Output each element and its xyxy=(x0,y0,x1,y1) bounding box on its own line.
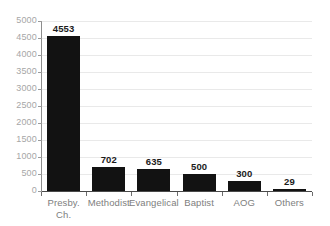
gridline xyxy=(41,89,312,90)
y-tick-label: 2500 xyxy=(1,101,37,110)
bar xyxy=(47,36,80,191)
y-tick-mark xyxy=(38,72,42,73)
bar xyxy=(92,167,125,191)
y-tick-mark xyxy=(38,21,42,22)
x-tick-mark xyxy=(267,192,268,196)
gridline xyxy=(41,55,312,56)
bar-value-label: 29 xyxy=(259,177,319,187)
category-label-line: Baptist xyxy=(184,197,214,208)
y-tick-mark xyxy=(38,123,42,124)
bar-value-label: 4553 xyxy=(34,24,94,34)
bar-chart: 5000450040003500300025002000150010005000… xyxy=(0,0,330,226)
category-label-line: Presby. xyxy=(47,197,79,208)
y-tick-mark xyxy=(38,140,42,141)
category-label-line: AOG xyxy=(234,197,255,208)
gridline xyxy=(41,38,312,39)
bar xyxy=(183,174,216,191)
y-tick-mark xyxy=(38,174,42,175)
y-tick-label: 5000 xyxy=(1,16,37,25)
y-tick-label: 2000 xyxy=(1,118,37,127)
y-tick-label: 1000 xyxy=(1,152,37,161)
x-tick-mark xyxy=(41,192,42,196)
y-axis-tick-labels: 5000450040003500300025002000150010005000 xyxy=(0,0,37,226)
gridline xyxy=(41,21,312,22)
x-tick-mark xyxy=(222,192,223,196)
gridline xyxy=(41,106,312,107)
x-tick-mark xyxy=(131,192,132,196)
x-tick-mark xyxy=(312,192,313,196)
y-tick-label: 4500 xyxy=(1,33,37,42)
y-tick-mark xyxy=(38,157,42,158)
y-tick-label: 3500 xyxy=(1,67,37,76)
x-tick-mark xyxy=(86,192,87,196)
gridline xyxy=(41,123,312,124)
bar xyxy=(228,181,261,191)
y-tick-mark xyxy=(38,106,42,107)
y-tick-mark xyxy=(38,89,42,90)
y-tick-label: 3000 xyxy=(1,84,37,93)
category-label: Others xyxy=(257,197,321,209)
x-tick-mark xyxy=(177,192,178,196)
gridline xyxy=(41,72,312,73)
y-tick-label: 500 xyxy=(1,169,37,178)
category-label-line: Ch. xyxy=(32,209,96,221)
y-tick-label: 4000 xyxy=(1,50,37,59)
y-tick-label: 0 xyxy=(1,186,37,195)
gridline xyxy=(41,140,312,141)
y-tick-mark xyxy=(38,55,42,56)
y-tick-mark xyxy=(38,38,42,39)
y-tick-label: 1500 xyxy=(1,135,37,144)
bar xyxy=(137,169,170,191)
category-label-line: Others xyxy=(275,197,304,208)
